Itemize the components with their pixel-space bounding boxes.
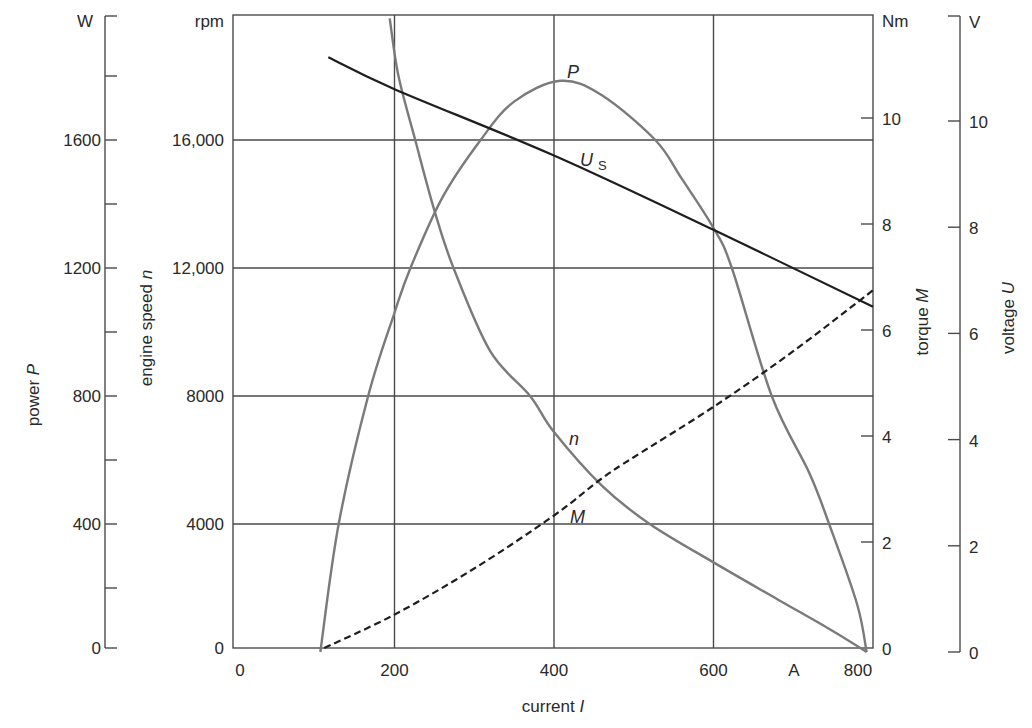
- x-axis-title-text: current: [522, 697, 575, 716]
- voltage-axis-title: voltage U: [999, 281, 1018, 354]
- x-axis: 0200400600800: [235, 661, 872, 680]
- torque-axis-title-var: M: [913, 288, 932, 303]
- curve-M: [324, 290, 873, 648]
- x-tick-label: 600: [699, 661, 727, 680]
- speed-unit-label: rpm: [195, 12, 224, 31]
- voltage-tick-label: 6: [969, 325, 978, 344]
- speed-axis-title-text: engine speed: [137, 284, 156, 386]
- x-tick-label: 0: [235, 661, 244, 680]
- power-axis: 040080012001600: [63, 16, 117, 658]
- voltage-axis-title-text: voltage: [999, 299, 1018, 354]
- speed-axis-title: engine speed n: [137, 270, 156, 386]
- voltage-tick-label: 4: [969, 432, 978, 451]
- speed-tick-label: 4000: [186, 515, 224, 534]
- curve-label-U: U: [580, 150, 594, 170]
- torque-tick-label: 2: [882, 534, 891, 553]
- torque-tick-label: 0: [882, 640, 891, 659]
- speed-tick-label: 16,000: [172, 131, 224, 150]
- x-tick-label: 200: [380, 661, 408, 680]
- torque-tick-label: 8: [882, 216, 891, 235]
- power-axis-title-text: power: [24, 380, 43, 427]
- power-tick-label: 400: [73, 515, 101, 534]
- speed-tick-label: 8000: [186, 387, 224, 406]
- curve-label-Us: U S: [580, 150, 607, 173]
- speed-tick-label: 0: [215, 639, 224, 658]
- torque-axis: 0246810: [861, 110, 901, 659]
- power-tick-label: 0: [92, 639, 101, 658]
- voltage-tick-label: 0: [969, 644, 978, 663]
- speed-axis-title-var: n: [137, 270, 156, 279]
- voltage-axis: 0246810: [948, 16, 988, 663]
- power-tick-label: 800: [73, 387, 101, 406]
- power-axis-title: power P: [24, 363, 43, 426]
- plot-grid: [233, 15, 873, 648]
- curve-label-U-sub: S: [598, 158, 607, 173]
- x-tick-label: 400: [540, 661, 568, 680]
- voltage-tick-label: 10: [969, 113, 988, 132]
- power-tick-label: 1600: [63, 131, 101, 150]
- torque-tick-label: 4: [882, 428, 891, 447]
- power-unit-label: W: [77, 12, 93, 31]
- plot-frame: [233, 15, 873, 648]
- torque-unit-label: Nm: [882, 12, 908, 31]
- x-axis-title: current I: [522, 697, 585, 716]
- power-tick-label: 1200: [63, 259, 101, 278]
- motor-characteristic-chart: 040080012001600 04000800012,00016,000 02…: [0, 0, 1032, 728]
- voltage-tick-label: 8: [969, 219, 978, 238]
- torque-tick-label: 6: [882, 322, 891, 341]
- torque-axis-title: torque M: [913, 288, 932, 356]
- curves: [320, 18, 873, 652]
- x-axis-title-var: I: [579, 697, 584, 716]
- torque-axis-title-text: torque: [913, 307, 932, 355]
- power-axis-title-var: P: [24, 363, 43, 375]
- x-tick-label: 800: [844, 661, 872, 680]
- speed-axis: 04000800012,00016,000: [172, 131, 224, 658]
- x-unit-label: A: [788, 661, 800, 680]
- curve-label-n: n: [569, 429, 579, 449]
- curve-label-M: M: [570, 507, 585, 527]
- torque-tick-label: 10: [882, 110, 901, 129]
- curve-label-P: P: [567, 62, 579, 82]
- speed-tick-label: 12,000: [172, 259, 224, 278]
- voltage-unit-label: V: [969, 13, 981, 32]
- voltage-axis-title-var: U: [999, 281, 1018, 294]
- voltage-tick-label: 2: [969, 538, 978, 557]
